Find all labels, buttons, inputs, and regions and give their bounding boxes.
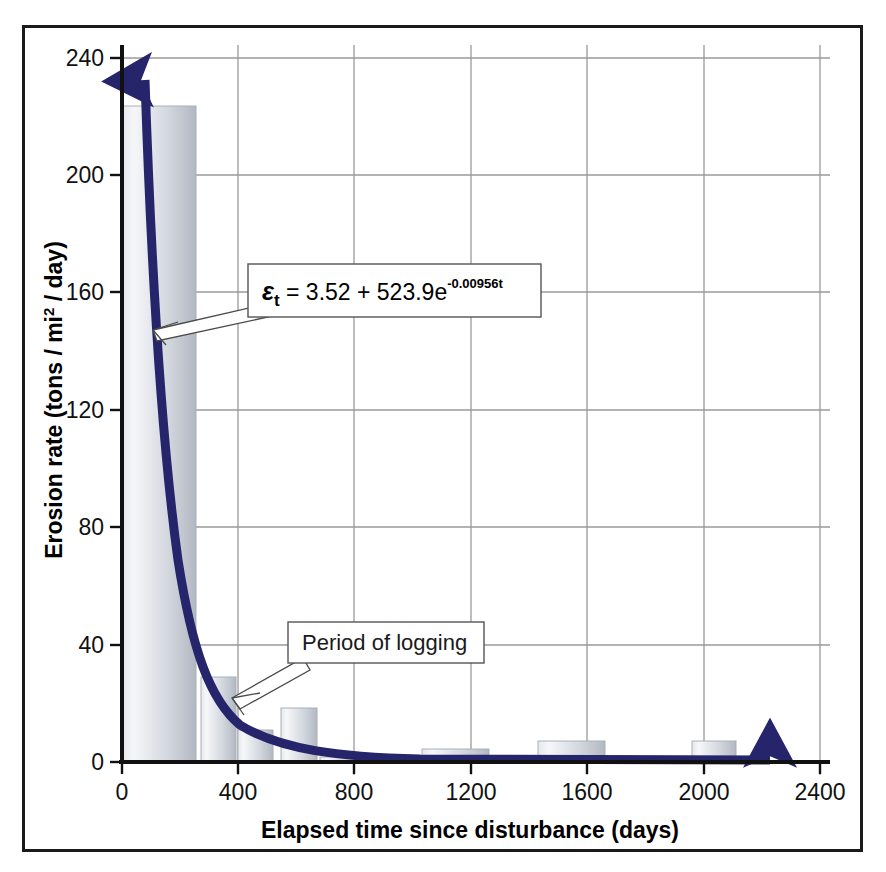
svg-text:Erosion rate (tons / mi2 / day: Erosion rate (tons / mi2 / day): [40, 241, 67, 559]
logging-callout: Period of logging: [232, 622, 484, 715]
x-tick-label: 0: [116, 779, 129, 805]
y-tick-label: 240: [66, 45, 104, 71]
chart-page: 240 200 160 120 80 40 0 0 400 800 1200 1…: [0, 0, 886, 872]
y-tick-label: 120: [66, 397, 104, 423]
x-tick-labels: 0 400 800 1200 1600 2000 2400: [116, 779, 846, 805]
bar: [122, 106, 196, 762]
y-tick-label: 40: [78, 632, 104, 658]
x-tick-label: 1200: [445, 779, 496, 805]
gridlines: [122, 45, 830, 775]
y-axis-title-tail: / day): [41, 241, 67, 307]
equation-exponent: -0.00956t: [447, 276, 503, 291]
x-tick-label: 2400: [794, 779, 845, 805]
x-axis-title: Elapsed time since disturbance (days): [261, 817, 679, 843]
y-tick-label: 80: [78, 514, 104, 540]
erosion-rate-chart: 240 200 160 120 80 40 0 0 400 800 1200 1…: [0, 0, 886, 872]
y-axis-title-main: Erosion rate (tons / mi: [41, 316, 67, 559]
y-tick-label: 0: [91, 749, 104, 775]
equation-callout: εt = 3.52 + 523.9e-0.00956t: [153, 264, 541, 345]
logging-callout-text: Period of logging: [302, 630, 467, 655]
x-tick-label: 400: [219, 779, 257, 805]
y-tick-label: 200: [66, 162, 104, 188]
y-tick-label: 160: [66, 279, 104, 305]
y-axis-title-superscript: 2: [40, 308, 57, 316]
x-tick-label: 800: [335, 779, 373, 805]
y-axis-title: Erosion rate (tons / mi2 / day): [40, 241, 67, 559]
equation-body: = 3.52 + 523.9e: [280, 279, 448, 305]
x-tick-label: 2000: [678, 779, 729, 805]
y-tick-labels: 240 200 160 120 80 40 0: [66, 45, 104, 775]
x-tick-label: 1600: [561, 779, 612, 805]
